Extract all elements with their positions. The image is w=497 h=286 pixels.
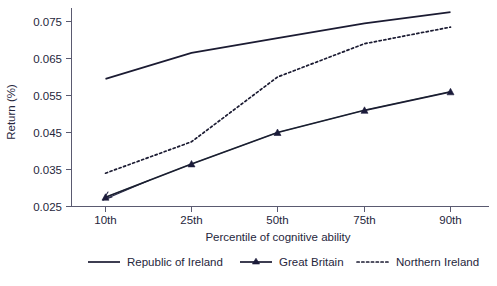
legend-label-roi: Republic of Ireland <box>127 256 223 268</box>
x-tick-label-1: 25th <box>180 214 202 226</box>
series-line-gb-tint <box>106 92 451 198</box>
legend-marker-gb-triangle <box>252 258 259 264</box>
x-tick-label-3: 75th <box>353 214 375 226</box>
x-tick-label-4: 90th <box>439 214 461 226</box>
line-chart: Return (%) 0.075 0.065 0.055 0.045 0.035… <box>0 0 497 286</box>
series-line-ni <box>106 27 451 173</box>
y-tick-label-2: 0.055 <box>33 90 62 102</box>
y-tick-label-4: 0.035 <box>33 164 62 176</box>
series-great-britain <box>102 88 454 200</box>
series-line-gb <box>106 92 451 198</box>
y-axis-title: Return (%) <box>5 84 17 140</box>
chart-figure: Return (%) 0.075 0.065 0.055 0.045 0.035… <box>0 0 497 286</box>
y-tick-label-5: 0.025 <box>33 201 62 213</box>
y-tick-label-1: 0.065 <box>33 53 62 65</box>
x-tick-label-0: 10th <box>94 214 116 226</box>
series-northern-ireland <box>106 27 451 173</box>
legend-label-gb: Great Britain <box>279 256 344 268</box>
series-line-roi <box>106 12 451 79</box>
x-tick-label-2: 50th <box>266 214 288 226</box>
chart-legend: Republic of Ireland Great Britain Northe… <box>88 256 479 268</box>
x-axis-title: Percentile of cognitive ability <box>205 231 350 243</box>
y-tick-label-3: 0.045 <box>33 127 62 139</box>
series-republic-of-ireland <box>106 12 451 79</box>
y-tick-label-0: 0.075 <box>33 16 62 28</box>
series-markers-gb <box>102 88 454 200</box>
legend-label-ni: Northern Ireland <box>396 256 479 268</box>
